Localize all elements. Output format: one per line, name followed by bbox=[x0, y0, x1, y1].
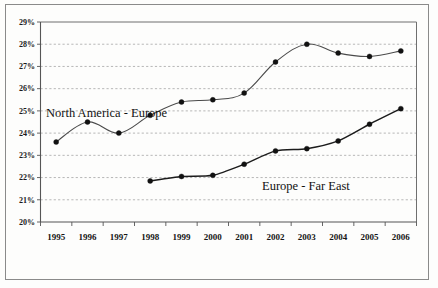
chart-figure: 20%21%22%23%24%25%26%27%28%29% 199519961… bbox=[0, 0, 438, 288]
series-line-2 bbox=[150, 109, 401, 181]
x-axis-label-1997: 1997 bbox=[110, 232, 129, 242]
gridlines bbox=[41, 44, 417, 200]
data-point-2-8 bbox=[398, 106, 403, 111]
y-axis-label-24: 24% bbox=[19, 129, 35, 138]
data-point-2-2 bbox=[210, 173, 215, 178]
data-point-1-9 bbox=[336, 51, 341, 56]
y-axis-label-28: 28% bbox=[19, 40, 35, 49]
y-axis-label-23: 23% bbox=[19, 151, 35, 160]
x-axis-label-2006: 2006 bbox=[392, 232, 411, 242]
data-point-2-7 bbox=[367, 122, 372, 127]
x-axis-label-2003: 2003 bbox=[298, 232, 317, 242]
data-point-2-1 bbox=[179, 174, 184, 179]
y-axis-label-25: 25% bbox=[19, 107, 35, 116]
series-annotation-1: North America - Europe bbox=[46, 106, 168, 120]
x-axis-label-2002: 2002 bbox=[267, 232, 286, 242]
x-axis-label-1998: 1998 bbox=[141, 232, 160, 242]
data-point-2-3 bbox=[242, 162, 247, 167]
y-axis-label-20: 20% bbox=[19, 218, 35, 227]
x-axis-label-2005: 2005 bbox=[361, 232, 380, 242]
data-point-2-6 bbox=[336, 138, 341, 143]
data-point-1-10 bbox=[367, 54, 372, 59]
data-point-2-5 bbox=[304, 146, 309, 151]
y-axis-label-21: 21% bbox=[19, 196, 35, 205]
x-axis-label-2001: 2001 bbox=[235, 232, 254, 242]
data-point-1-6 bbox=[242, 91, 247, 96]
series-line-1 bbox=[56, 44, 401, 142]
x-axis-label-1996: 1996 bbox=[79, 232, 98, 242]
x-axis-tick-marks bbox=[41, 222, 417, 226]
data-point-1-11 bbox=[398, 48, 403, 53]
y-axis-label-26: 26% bbox=[19, 84, 35, 93]
data-point-1-0 bbox=[54, 140, 59, 145]
series-annotation-2: Europe - Far East bbox=[262, 179, 350, 193]
data-point-1-8 bbox=[304, 42, 309, 47]
y-axis-label-27: 27% bbox=[19, 62, 35, 71]
data-point-2-4 bbox=[273, 148, 278, 153]
data-point-1-4 bbox=[179, 100, 184, 105]
data-point-1-2 bbox=[116, 131, 121, 136]
x-axis-label-2004: 2004 bbox=[329, 232, 348, 242]
line-chart: 20%21%22%23%24%25%26%27%28%29% 199519961… bbox=[0, 0, 438, 288]
y-axis-label-22: 22% bbox=[19, 173, 35, 182]
data-point-1-7 bbox=[273, 60, 278, 65]
x-axis-label-1999: 1999 bbox=[173, 232, 192, 242]
data-point-1-5 bbox=[210, 97, 215, 102]
x-axis-label-2000: 2000 bbox=[204, 232, 223, 242]
y-axis-tick-labels: 20%21%22%23%24%25%26%27%28%29% bbox=[19, 18, 35, 227]
data-point-2-0 bbox=[148, 178, 153, 183]
y-axis-label-29: 29% bbox=[19, 18, 35, 27]
plot-area-border bbox=[41, 22, 417, 222]
x-axis-tick-labels: 1995199619971998199920002001200220032004… bbox=[47, 232, 410, 242]
x-axis-label-1995: 1995 bbox=[47, 232, 66, 242]
data-point-1-1 bbox=[85, 120, 90, 125]
